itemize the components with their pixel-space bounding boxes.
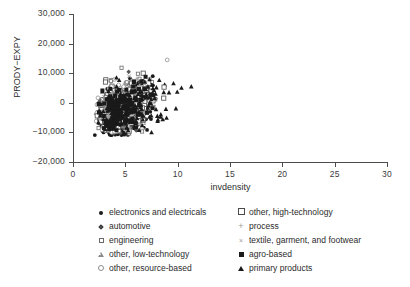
legend-item[interactable]: electronics and electricals — [95, 204, 240, 218]
scatter-point — [103, 80, 107, 84]
scatter-point — [122, 133, 126, 137]
legend-item[interactable]: other, resource-based — [95, 260, 240, 274]
open-triangle-icon — [95, 247, 107, 261]
open-square-small-icon — [95, 233, 107, 247]
legend-item-label: process — [247, 219, 279, 233]
scatter-point — [174, 106, 179, 110]
scatter-point — [141, 71, 145, 75]
scatter-point — [162, 96, 166, 100]
scatter-point — [167, 90, 172, 94]
scatter-point-outlier — [189, 84, 194, 88]
cross-icon: × — [235, 233, 247, 247]
filled-diamond-icon — [95, 219, 107, 233]
plot-area — [73, 14, 387, 162]
open-square-icon — [235, 205, 247, 219]
legend-item-label: primary products — [247, 261, 312, 275]
scatter-point-outlier — [151, 106, 155, 110]
scatter-point — [161, 90, 166, 94]
legend-item-label: agro-based — [247, 247, 292, 261]
legend-item[interactable]: primary products — [235, 260, 400, 274]
scatter-points-canvas — [73, 14, 387, 162]
scatter-point — [137, 87, 141, 91]
scatter-point — [97, 127, 100, 130]
scatter-point — [136, 72, 139, 75]
legend-item[interactable]: +process — [235, 218, 400, 232]
x-axis-title: invdensity — [73, 182, 388, 192]
scatter-point-outlier — [162, 85, 166, 89]
scatter-point — [145, 128, 149, 132]
x-tick-mark — [125, 163, 126, 167]
y-tick-label: −20,000 — [33, 156, 65, 166]
scatter-point — [102, 101, 106, 105]
x-tick-label: 20 — [262, 169, 302, 179]
legend-item[interactable]: automotive — [95, 218, 240, 232]
x-tick-label: 25 — [315, 169, 355, 179]
x-tick-label: 5 — [105, 169, 145, 179]
filled-triangle-icon — [235, 261, 247, 275]
legend-item-label: engineering — [107, 233, 153, 247]
scatter-point — [159, 112, 164, 116]
legend-column-left: electronics and electricalsautomotiveeng… — [95, 204, 240, 274]
legend-item-label: other, low-technology — [107, 247, 189, 261]
scatter-point — [124, 88, 128, 92]
y-tick-label: −10,000 — [33, 126, 65, 136]
scatter-point — [134, 125, 138, 129]
plus-icon: + — [235, 219, 247, 233]
scatter-point — [93, 133, 97, 137]
scatter-point — [179, 86, 184, 90]
legend-column-right: other, high-technology+process×textile, … — [235, 204, 400, 274]
legend-item-label: electronics and electricals — [107, 205, 206, 219]
x-tick-label: 0 — [53, 169, 93, 179]
scatter-point — [164, 107, 169, 111]
legend-item-label: other, high-technology — [247, 205, 333, 219]
scatter-point — [157, 78, 162, 82]
legend-item-label: textile, garment, and footwear — [247, 233, 361, 247]
y-tick-label: 30,000 — [38, 8, 65, 18]
legend-item[interactable]: ×textile, garment, and footwear — [235, 232, 400, 246]
scatter-point-outlier — [165, 58, 169, 62]
y-tick-label: 20,000 — [38, 38, 65, 48]
scatter-point — [132, 80, 136, 84]
x-tick-mark — [230, 163, 231, 167]
x-tick-label: 15 — [210, 169, 250, 179]
x-tick-mark — [387, 163, 388, 167]
scatter-point — [120, 66, 123, 69]
scatter-point — [115, 90, 119, 94]
y-axis-title: PRODY−EXPY — [12, 12, 22, 122]
x-tick-mark — [335, 163, 336, 167]
open-circle-icon — [95, 261, 107, 275]
x-tick-mark — [282, 163, 283, 167]
scatter-point — [126, 69, 130, 74]
scatter-point — [164, 115, 169, 119]
legend-item[interactable]: agro-based — [235, 246, 400, 260]
scatter-point — [131, 84, 135, 88]
x-tick-label: 10 — [158, 169, 198, 179]
scatter-point — [99, 102, 103, 106]
x-tick-mark — [73, 163, 74, 167]
scatter-point-outlier — [149, 130, 154, 134]
scatter-point — [175, 89, 180, 93]
legend-item[interactable]: other, low-technology — [95, 246, 240, 260]
filled-square-icon — [235, 247, 247, 261]
scatter-point — [139, 79, 143, 83]
x-tick-label: 30 — [367, 169, 407, 179]
scatter-point — [131, 118, 135, 122]
legend-item-label: automotive — [107, 219, 151, 233]
legend-item[interactable]: engineering — [95, 232, 240, 246]
scatter-point — [145, 111, 149, 115]
scatter-point — [171, 81, 176, 85]
x-tick-mark — [178, 163, 179, 167]
legend-item[interactable]: other, high-technology — [235, 204, 400, 218]
filled-circle-icon — [95, 205, 107, 219]
scatter-point — [144, 75, 148, 79]
y-tick-label: 10,000 — [38, 67, 65, 77]
legend-item-label: other, resource-based — [107, 261, 192, 275]
scatter-chart-figure: 30,00020,00010,0000−10,000−20,000 051015… — [0, 0, 410, 287]
y-tick-label: 0 — [60, 97, 65, 107]
scatter-point — [96, 96, 100, 100]
